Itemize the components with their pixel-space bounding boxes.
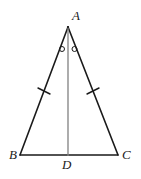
- vertex-label-a: A: [72, 9, 80, 22]
- vertex-point-a: [67, 26, 69, 28]
- geometry-figure: A B C D: [0, 0, 141, 179]
- triangle-diagram-canvas: [0, 0, 141, 179]
- vertex-label-c: C: [122, 148, 131, 161]
- vertex-label-d: D: [62, 158, 71, 171]
- vertex-label-b: B: [9, 148, 17, 161]
